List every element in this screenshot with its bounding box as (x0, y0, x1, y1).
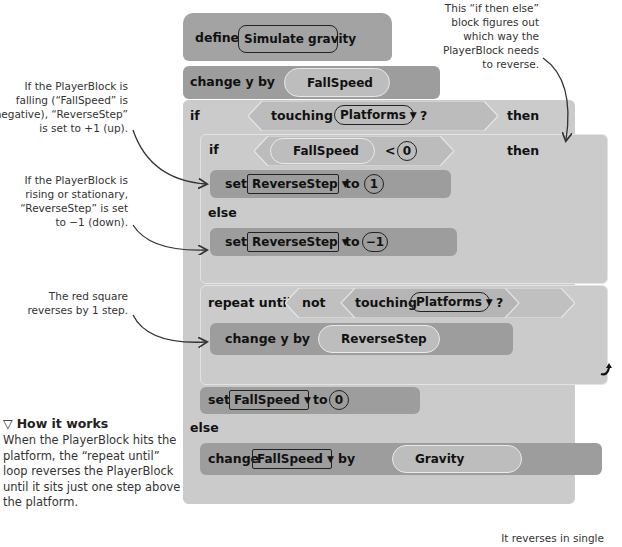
platforms-dropdown[interactable]: Platforms▼ (410, 292, 490, 312)
dropdown-arrow-icon: ▼ (327, 454, 334, 464)
set-label: set (225, 236, 247, 249)
dropdown-arrow-icon: ▼ (410, 110, 417, 120)
by-label: by (338, 453, 355, 466)
simulate-gravity-prototype[interactable]: Simulate gravity (238, 25, 338, 53)
question-mark: ? (496, 297, 503, 310)
value-one-input[interactable]: 1 (364, 174, 384, 194)
define-label: define (195, 32, 239, 45)
to-label: to (345, 236, 360, 249)
set-label: set (225, 178, 247, 191)
touching-label: touching (355, 297, 417, 310)
inner-if-label: if (209, 144, 219, 157)
set-label: set (208, 394, 230, 407)
fallspeed-dropdown[interactable]: FallSpeed▼ (252, 449, 332, 469)
value-minus-one-input[interactable]: −1 (362, 232, 388, 252)
reversestep-dropdown[interactable]: ReverseStep▼ (247, 174, 339, 194)
to-label: to (345, 178, 360, 191)
platforms-dropdown[interactable]: Platforms▼ (334, 105, 414, 125)
dropdown-arrow-icon: ▼ (304, 395, 311, 405)
annotation-rising: If the PlayerBlock is rising or stationa… (20, 174, 128, 230)
not-label: not (302, 297, 325, 310)
reversestep-dropdown[interactable]: ReverseStep▼ (247, 232, 339, 252)
fallspeed-reporter[interactable]: FallSpeed (284, 68, 390, 97)
value-zero-input[interactable]: 0 (329, 390, 349, 410)
question-mark: ? (420, 110, 427, 123)
how-it-works-title: ▽How it works (3, 416, 108, 431)
outer-if-footer (183, 476, 558, 504)
annotation-if-then-else: This “if then else” block figures out wh… (443, 2, 539, 72)
to-label: to (313, 394, 328, 407)
fallspeed-reporter[interactable]: FallSpeed (270, 138, 375, 164)
outer-if-label: if (190, 110, 200, 123)
fallspeed-dropdown[interactable]: FallSpeed▼ (229, 390, 309, 410)
triangle-down-icon: ▽ (3, 416, 13, 431)
gravity-reporter[interactable]: Gravity (392, 445, 522, 473)
annotation-single-steps: It reverses in single (501, 532, 604, 546)
outer-else-label-overlay: else (190, 422, 219, 435)
change-y-label: change y by (225, 333, 310, 346)
touching-label: touching (271, 110, 333, 123)
how-it-works-body: When the PlayerBlock hits the platform, … (3, 433, 180, 511)
reversestep-reporter[interactable]: ReverseStep (318, 325, 440, 353)
annotation-red-square: The red square reverses by 1 step. (27, 290, 128, 318)
annotation-falling: If the PlayerBlock is falling (“FallSpee… (0, 80, 128, 136)
outer-then-label: then (507, 110, 539, 123)
inner-else-label: else (208, 207, 237, 220)
loop-arrow-icon (598, 362, 614, 378)
less-than-operator: < (385, 145, 395, 158)
outer-else-row (183, 414, 558, 442)
zero-operand[interactable]: 0 (397, 141, 417, 161)
change-y-label: change y by (190, 76, 275, 89)
repeat-until-label: repeat until (208, 297, 291, 310)
inner-then-label: then (507, 145, 539, 158)
dropdown-arrow-icon: ▼ (486, 297, 493, 307)
